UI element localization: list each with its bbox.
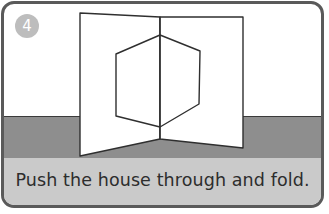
card-left-panel xyxy=(80,13,160,156)
card-right-panel xyxy=(160,17,243,148)
folded-card-illustration xyxy=(0,0,329,214)
